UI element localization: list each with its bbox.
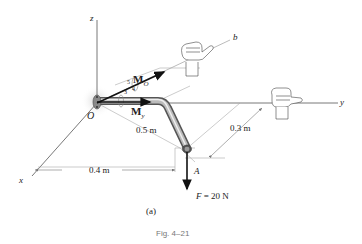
- moment-y-label: My: [131, 106, 145, 120]
- z-axis-label: z: [90, 14, 94, 23]
- dimension-0.4m: 0.4 m: [89, 166, 110, 175]
- y-axis-label: y: [340, 98, 344, 107]
- slope-hyp: 5: [127, 79, 130, 85]
- slope-run: 4: [132, 86, 135, 92]
- b-axis-label: b: [233, 33, 238, 42]
- point-A-label: A: [194, 167, 200, 176]
- right-hand-icon-b: [182, 42, 214, 76]
- x-axis-label: x: [19, 176, 23, 185]
- dimension-0.3m: 0.3 m: [230, 124, 251, 133]
- pipe-end-inner: [185, 147, 190, 151]
- bolt-icon: [96, 96, 98, 98]
- figure-caption: Fig. 4–21: [156, 230, 189, 238]
- dimension-0.5m: 0.5 m: [136, 126, 157, 135]
- origin-label: O: [87, 111, 94, 121]
- moment-O-label: MO: [133, 74, 148, 88]
- right-hand-icon-y: [272, 88, 303, 119]
- bolt-icon: [96, 106, 98, 108]
- subfigure-label: (a): [146, 207, 156, 216]
- diagram-canvas: [0, 0, 362, 244]
- slope-rise: 3: [124, 89, 127, 95]
- force-label: F = 20 N: [196, 192, 229, 201]
